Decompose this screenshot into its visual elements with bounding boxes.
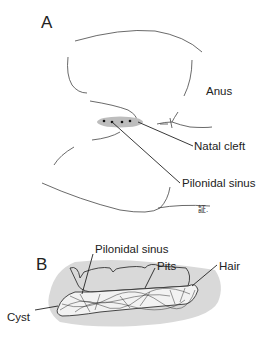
- artist-signature: 証.: [198, 206, 208, 214]
- diagram-canvas: [0, 0, 265, 346]
- label-cyst: Cyst: [7, 312, 30, 324]
- label-pilonidal-sinus-a: Pilonidal sinus: [182, 178, 256, 190]
- label-hair: Hair: [219, 261, 240, 273]
- label-natal-cleft: Natal cleft: [194, 141, 245, 153]
- panel-label-b: B: [36, 256, 47, 273]
- label-anus: Anus: [206, 86, 232, 98]
- label-pits: Pits: [157, 261, 176, 273]
- leader-lines-a: [112, 122, 193, 183]
- panel-label-a: A: [41, 14, 52, 31]
- label-pilonidal-sinus-b: Pilonidal sinus: [95, 244, 169, 256]
